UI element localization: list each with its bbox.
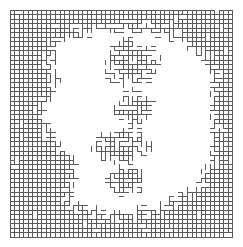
- lattice-figure: [0, 0, 243, 247]
- lattice-canvas: [0, 0, 243, 247]
